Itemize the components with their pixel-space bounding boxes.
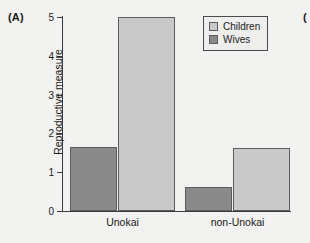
figure-panel-a: (A) ( 012345 Reproductive measure Unokai… bbox=[0, 0, 310, 243]
legend-swatch-wives-icon bbox=[209, 35, 218, 44]
panel-label: (A) bbox=[8, 11, 24, 23]
bar-non-unokai-wives bbox=[185, 187, 232, 211]
y-axis-tick-label: 0 bbox=[34, 206, 54, 217]
y-axis-tick-label: 1 bbox=[34, 167, 54, 178]
legend-label-wives: Wives bbox=[223, 34, 250, 45]
y-axis-tick-label: 3 bbox=[34, 89, 54, 100]
y-axis-tick-mark bbox=[57, 211, 62, 212]
legend-swatch-children-icon bbox=[209, 22, 218, 31]
panel-label-next: ( bbox=[303, 11, 307, 23]
legend-item: Wives bbox=[209, 33, 260, 46]
y-axis-tick-label: 4 bbox=[34, 50, 54, 61]
x-axis-label-non-unokai: non-Unokai bbox=[211, 216, 265, 228]
bar-unokai-children bbox=[118, 17, 175, 211]
y-axis-tick-label: 5 bbox=[34, 12, 54, 23]
x-axis-label-unokai: Unokai bbox=[106, 216, 139, 228]
x-axis-line bbox=[62, 211, 291, 212]
legend-label-children: Children bbox=[223, 21, 260, 32]
legend-item: Children bbox=[209, 20, 260, 33]
bar-non-unokai-children bbox=[233, 148, 290, 211]
chart-legend: Children Wives bbox=[203, 16, 268, 51]
y-axis-tick-label: 2 bbox=[34, 128, 54, 139]
bar-unokai-wives bbox=[70, 147, 117, 211]
